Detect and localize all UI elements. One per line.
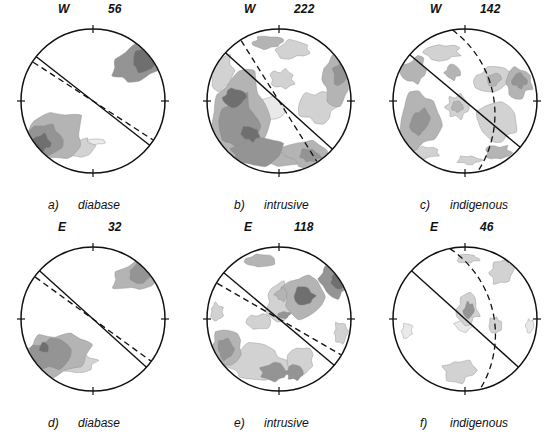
stereonet-panel-a: W56a)diabase bbox=[0, 0, 186, 218]
caption-name: indigenous bbox=[450, 416, 508, 430]
panel-caption: b)intrusive bbox=[186, 198, 372, 216]
panel-header: E118 bbox=[186, 218, 372, 240]
caption-letter: a) bbox=[48, 198, 59, 212]
density-contour bbox=[246, 314, 271, 329]
stereonet-plot bbox=[384, 238, 546, 400]
panel-header: E46 bbox=[372, 218, 558, 240]
direction-label: W bbox=[244, 2, 256, 16]
stereonet-plot bbox=[12, 238, 174, 400]
stereonet-figure: W56a)diabaseW222b)intrusiveW142c)indigen… bbox=[0, 0, 558, 437]
panel-caption: c)indigenous bbox=[372, 198, 558, 216]
density-contour bbox=[400, 56, 427, 85]
stereonet-panel-c: W142c)indigenous bbox=[372, 0, 558, 218]
sample-count: 32 bbox=[108, 220, 122, 234]
stereonet-plot bbox=[12, 20, 174, 182]
panel-caption: f)indigenous bbox=[372, 416, 558, 434]
density-contour bbox=[270, 68, 295, 89]
direction-label: E bbox=[58, 220, 66, 234]
caption-name: indigenous bbox=[450, 198, 508, 212]
caption-letter: b) bbox=[234, 198, 245, 212]
panel-header: W142 bbox=[372, 0, 558, 22]
density-contour bbox=[334, 322, 349, 344]
panel-header: W222 bbox=[186, 0, 372, 22]
sample-count: 46 bbox=[480, 220, 494, 234]
caption-name: intrusive bbox=[264, 198, 309, 212]
density-contour bbox=[444, 64, 461, 81]
direction-label: W bbox=[430, 2, 442, 16]
sample-count: 222 bbox=[294, 2, 315, 16]
caption-letter: e) bbox=[234, 416, 245, 430]
caption-letter: d) bbox=[48, 416, 59, 430]
stereonet-panel-f: E46f)indigenous bbox=[372, 218, 558, 436]
stereonet-plot bbox=[384, 20, 546, 182]
density-contour bbox=[525, 319, 533, 334]
density-contour bbox=[457, 156, 483, 165]
direction-label: E bbox=[430, 220, 438, 234]
sample-count: 142 bbox=[480, 2, 501, 16]
caption-name: diabase bbox=[78, 198, 120, 212]
caption-letter: c) bbox=[420, 198, 430, 212]
panel-caption: a)diabase bbox=[0, 198, 186, 216]
density-contour bbox=[211, 302, 224, 322]
stereonet-plot bbox=[198, 238, 360, 400]
panel-caption: e)intrusive bbox=[186, 416, 372, 434]
panel-header: E32 bbox=[0, 218, 186, 240]
direction-label: W bbox=[58, 2, 70, 16]
stereonet-panel-e: E118e)intrusive bbox=[186, 218, 372, 436]
density-contour bbox=[457, 254, 480, 263]
density-contour bbox=[422, 45, 461, 62]
panel-caption: d)diabase bbox=[0, 416, 186, 434]
stereonet-panel-b: W222b)intrusive bbox=[186, 0, 372, 218]
girdle-line bbox=[412, 271, 519, 367]
density-contour bbox=[442, 360, 477, 384]
direction-label: E bbox=[244, 220, 252, 234]
stereonet-plot bbox=[198, 20, 360, 182]
sample-count: 56 bbox=[108, 2, 122, 16]
caption-letter: f) bbox=[420, 416, 427, 430]
caption-name: diabase bbox=[78, 416, 120, 430]
stereonet-panel-d: E32d)diabase bbox=[0, 218, 186, 436]
density-contour bbox=[278, 312, 291, 319]
density-contour bbox=[244, 254, 275, 267]
density-contour bbox=[476, 102, 516, 143]
caption-name: intrusive bbox=[264, 416, 309, 430]
sample-count: 118 bbox=[294, 220, 314, 234]
density-contour bbox=[401, 323, 413, 338]
panel-header: W56 bbox=[0, 0, 186, 22]
